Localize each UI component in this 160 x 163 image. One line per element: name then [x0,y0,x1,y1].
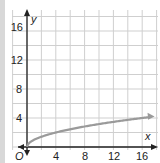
x-tick-label: 12 [108,150,120,162]
y-axis-label: y [30,13,38,25]
x-tick-label: 16 [136,150,148,162]
y-tick-label: 8 [16,83,22,95]
y-tick-label: 4 [16,112,22,124]
x-tick-label: 8 [82,150,88,162]
origin-label: O [15,150,24,162]
x-tick-label: 4 [53,150,59,162]
tick-labels: 4 8 12 16 4 8 12 16 y x O [11,13,151,162]
chart: 4 8 12 16 4 8 12 16 y x O [0,0,160,163]
grid-lines [12,10,158,150]
y-tick-label: 16 [11,21,23,33]
y-tick-label: 12 [11,54,23,66]
x-axis-label: x [144,130,151,142]
